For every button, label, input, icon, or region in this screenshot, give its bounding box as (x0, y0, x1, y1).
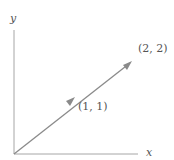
y-axis-label: y (10, 12, 16, 25)
point-label-1-1: (1, 1) (78, 100, 108, 113)
midpoint-arrow-icon (66, 97, 75, 106)
x-axis-label: x (146, 146, 152, 159)
vector-line (14, 63, 130, 154)
point-label-2-2: (2, 2) (138, 42, 168, 55)
endpoint-arrow-icon (123, 61, 132, 70)
vector-diagram (0, 0, 174, 160)
